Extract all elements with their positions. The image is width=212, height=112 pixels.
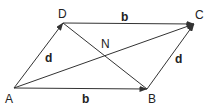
vector-dc — [63, 23, 194, 24]
diagonal-ac — [14, 24, 194, 88]
vector-ad — [14, 23, 63, 88]
parallelogram-diagram: A B C D N b b d d — [0, 0, 212, 112]
vector-label-dc: b — [121, 10, 128, 24]
vector-label-ab: b — [82, 92, 89, 106]
vertex-label-b: B — [148, 92, 156, 106]
vector-ab — [14, 88, 147, 89]
vertex-label-c: C — [195, 8, 204, 22]
vector-label-bc: d — [175, 52, 182, 66]
diagonal-db — [63, 23, 147, 89]
vertex-label-a: A — [5, 92, 13, 106]
vector-bc — [147, 24, 194, 89]
vertex-label-d: D — [58, 7, 67, 21]
vector-label-ad: d — [45, 51, 52, 65]
intersection-label-n: N — [101, 37, 110, 51]
